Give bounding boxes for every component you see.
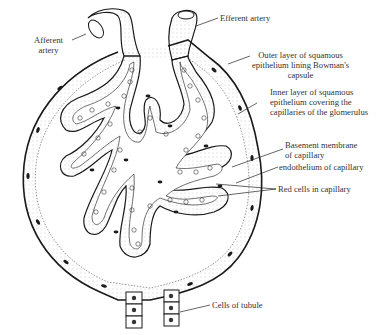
- afferent-artery-lumen: [85, 17, 106, 40]
- label-outer-layer-line2: epithelium lining Bowman's: [252, 60, 349, 70]
- label-afferent-artery-line2: artery: [34, 45, 63, 55]
- label-afferent-artery-line1: Afferent: [34, 35, 63, 45]
- label-red-cells: Red cells in capillary: [278, 184, 351, 194]
- label-basement-membrane: Basement membrane of capillary: [285, 140, 357, 160]
- label-inner-layer: Inner layer of squamous epithelium cover…: [270, 87, 368, 117]
- label-inner-layer-line2: epithelium covering the: [270, 97, 368, 107]
- efferent-artery-lumen: [178, 11, 194, 19]
- label-outer-layer: Outer layer of squamous epithelium linin…: [252, 50, 349, 80]
- label-basement-membrane-line1: Basement membrane: [285, 140, 357, 150]
- label-basement-membrane-line2: of capillary: [285, 150, 357, 160]
- label-tubule-cells: Cells of tubule: [212, 300, 263, 310]
- label-endothelium: endothelium of capillary: [279, 162, 363, 172]
- label-efferent-artery: Efferent artery: [220, 13, 270, 23]
- label-outer-layer-line1: Outer layer of squamous: [252, 50, 349, 60]
- label-inner-layer-line1: Inner layer of squamous: [270, 87, 368, 97]
- label-inner-layer-line3: capillaries of the glomerulus: [270, 107, 368, 117]
- label-afferent-artery: Afferent artery: [34, 35, 63, 55]
- label-outer-layer-line3: capsule: [252, 70, 349, 80]
